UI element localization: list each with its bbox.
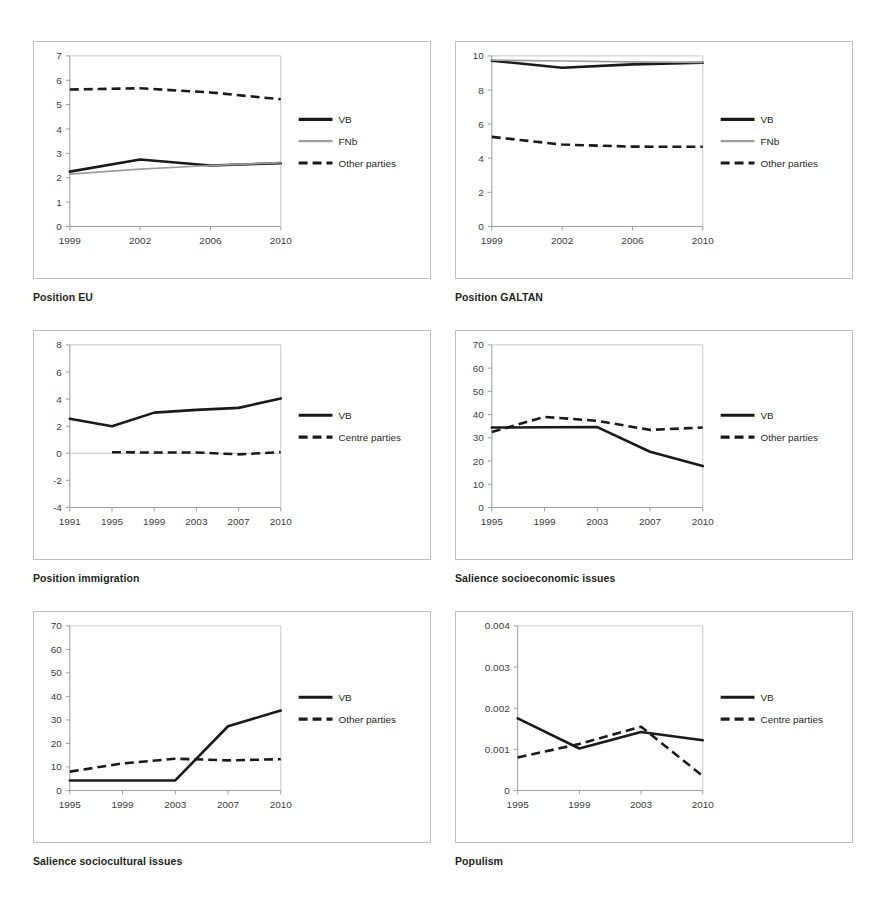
x-tick-label: 2003	[586, 516, 609, 527]
x-tick-label: 2010	[692, 799, 715, 810]
chart-position-galtan: 02468101999200220062010VBFNbOther partie…	[456, 42, 852, 278]
y-tick-label: 0	[56, 448, 62, 459]
x-tick-label: 2010	[270, 235, 293, 246]
chart-panel-populism: 00.0010.0020.0030.0041995199920032010VBC…	[455, 611, 855, 867]
y-tick-label: 8	[478, 85, 484, 96]
legend-label-vb: VB	[338, 410, 352, 421]
x-tick-label: 2007	[217, 799, 240, 810]
legend-label-other-parties: Other parties	[760, 432, 817, 443]
x-tick-label: 1999	[533, 516, 556, 527]
series-line-fnb	[70, 163, 281, 174]
y-tick-label: 7	[56, 50, 62, 61]
y-tick-label: 60	[51, 644, 63, 655]
y-tick-label: 6	[56, 367, 62, 378]
y-tick-label: 4	[56, 394, 62, 405]
x-tick-label: 2006	[199, 235, 222, 246]
chart-salience-sociocultural: 01020304050607019951999200320072010VBOth…	[34, 612, 430, 842]
y-tick-label: 1	[56, 197, 62, 208]
x-tick-label: 1995	[481, 516, 504, 527]
x-tick-label: 2010	[270, 799, 293, 810]
chart-caption-salience-sociocultural: Salience sociocultural issues	[33, 855, 433, 867]
y-tick-label: 50	[473, 386, 485, 397]
chart-populism: 00.0010.0020.0030.0041995199920032010VBC…	[456, 612, 852, 842]
legend-label-other-parties: Other parties	[338, 714, 395, 725]
y-tick-label: 0	[56, 785, 62, 796]
chart-panel-salience-sociocultural: 01020304050607019951999200320072010VBOth…	[33, 611, 433, 867]
x-tick-label: 2010	[692, 235, 715, 246]
y-tick-label: 0	[56, 221, 62, 232]
y-tick-label: 5	[56, 99, 62, 110]
chart-frame: 012345671999200220062010VBFNbOther parti…	[33, 41, 431, 279]
series-line-other-parties	[492, 417, 703, 432]
chart-frame: -4-202468199119951999200320072010VBCentr…	[33, 330, 431, 560]
x-tick-label: 1999	[111, 799, 134, 810]
chart-panel-salience-socioeconomic: 01020304050607019951999200320072010VBOth…	[455, 330, 855, 584]
y-tick-label: 0.004	[485, 620, 510, 631]
y-tick-label: 0.003	[485, 662, 510, 673]
x-tick-label: 2003	[185, 516, 208, 527]
series-line-vb	[70, 398, 281, 426]
y-tick-label: 6	[478, 119, 484, 130]
y-tick-label: 4	[478, 153, 484, 164]
y-tick-label: 2	[56, 172, 62, 183]
x-tick-label: 1999	[143, 516, 166, 527]
series-line-other-parties	[70, 88, 281, 99]
x-tick-label: 1995	[59, 799, 82, 810]
y-tick-label: 10	[473, 50, 485, 61]
y-tick-label: 30	[51, 715, 63, 726]
series-line-fnb	[492, 60, 703, 62]
y-tick-label: 2	[56, 421, 62, 432]
x-tick-label: 2002	[129, 235, 152, 246]
legend-label-centre-parties: Centre parties	[760, 714, 822, 725]
y-tick-label: 70	[51, 620, 63, 631]
y-tick-label: 50	[51, 667, 63, 678]
legend-label-fnb: FNb	[338, 136, 357, 147]
legend-label-vb: VB	[760, 410, 774, 421]
chart-caption-populism: Populism	[455, 855, 855, 867]
y-tick-label: 10	[51, 762, 63, 773]
y-tick-label: 0.001	[485, 744, 510, 755]
y-tick-label: 70	[473, 339, 485, 350]
legend-label-vb: VB	[760, 692, 774, 703]
y-tick-label: 40	[51, 691, 63, 702]
x-tick-label: 2002	[551, 235, 574, 246]
legend-label-centre-parties: Centre parties	[338, 432, 400, 443]
x-tick-label: 2010	[692, 516, 715, 527]
series-line-vb	[70, 711, 281, 781]
chart-frame: 00.0010.0020.0030.0041995199920032010VBC…	[455, 611, 853, 843]
y-tick-label: 6	[56, 75, 62, 86]
x-tick-label: 2007	[228, 516, 251, 527]
y-tick-label: 0	[478, 502, 484, 513]
y-tick-label: 2	[478, 187, 484, 198]
y-tick-label: 20	[473, 456, 485, 467]
chart-panel-position-immigration: -4-202468199119951999200320072010VBCentr…	[33, 330, 433, 584]
chart-position-immigration: -4-202468199119951999200320072010VBCentr…	[34, 331, 430, 559]
chart-frame: 01020304050607019951999200320072010VBOth…	[33, 611, 431, 843]
y-tick-label: 0.002	[485, 703, 510, 714]
y-tick-label: 3	[56, 148, 62, 159]
y-tick-label: -2	[53, 475, 62, 486]
x-tick-label: 1999	[481, 235, 504, 246]
y-tick-label: 4	[56, 124, 62, 135]
chart-salience-socioeconomic: 01020304050607019951999200320072010VBOth…	[456, 331, 852, 559]
legend-label-other-parties: Other parties	[760, 158, 817, 169]
y-tick-label: 30	[473, 432, 485, 443]
chart-caption-position-galtan: Position GALTAN	[455, 291, 855, 303]
legend-label-other-parties: Other parties	[338, 158, 395, 169]
x-tick-label: 1995	[101, 516, 124, 527]
y-tick-label: 0	[504, 785, 510, 796]
x-tick-label: 2006	[621, 235, 644, 246]
x-tick-label: 1995	[507, 799, 530, 810]
y-tick-label: 40	[473, 409, 485, 420]
x-tick-label: 2007	[639, 516, 662, 527]
x-tick-label: 1999	[59, 235, 82, 246]
chart-caption-position-eu: Position EU	[33, 291, 433, 303]
chart-panel-position-galtan: 02468101999200220062010VBFNbOther partie…	[455, 41, 855, 303]
series-line-other-parties	[70, 759, 281, 772]
y-tick-label: -4	[53, 502, 62, 513]
chart-caption-salience-socioeconomic: Salience socioeconomic issues	[455, 572, 855, 584]
y-tick-label: 8	[56, 339, 62, 350]
chart-position-eu: 012345671999200220062010VBFNbOther parti…	[34, 42, 430, 278]
series-line-centre-parties	[518, 727, 703, 776]
y-tick-label: 20	[51, 738, 63, 749]
